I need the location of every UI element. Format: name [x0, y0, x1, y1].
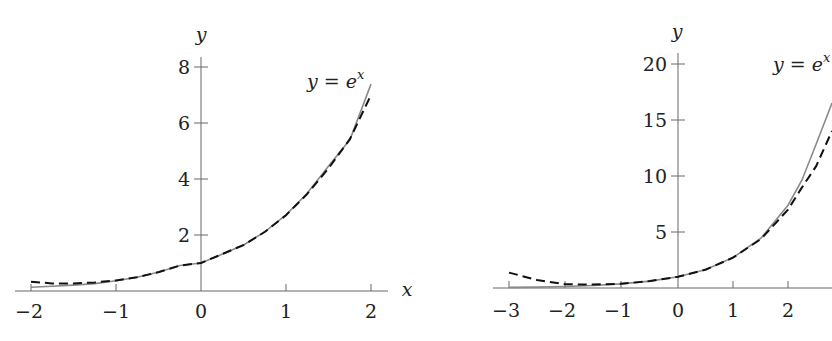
right-x-tick-label: 0	[672, 299, 684, 321]
left-y-axis-label: y	[195, 23, 207, 45]
right-y-tick-label: 15	[643, 109, 667, 131]
right-x-tick-label: 1	[727, 299, 739, 321]
left-y-tick-label: 2	[178, 224, 190, 246]
left-curve-label: y = ex	[306, 67, 365, 92]
left-x-tick-label: 1	[280, 300, 292, 322]
right-exp-curve	[509, 103, 832, 287]
right-y-tick-label: 5	[655, 221, 667, 243]
left-y-tick-label: 8	[178, 56, 190, 78]
figure: −2 −1 0 1 2 2 4 6 8 y x y = ex	[0, 0, 832, 341]
left-x-tick-label: 0	[195, 300, 207, 322]
right-y-tick-label: 20	[643, 53, 667, 75]
left-chart: −2 −1 0 1 2 2 4 6 8 y x y = ex	[15, 23, 413, 322]
left-x-tick-label: −1	[102, 300, 130, 322]
right-y-tick-label: 10	[643, 165, 667, 187]
right-x-tick-label: −3	[492, 299, 520, 321]
right-curve-label: y = ex	[772, 50, 831, 75]
left-x-axis-label: x	[402, 278, 413, 300]
left-x-tick-label: −2	[15, 300, 43, 322]
right-taylor-curve	[509, 131, 832, 285]
right-x-tick-label: −1	[604, 299, 632, 321]
right-chart: −3 −2 −1 0 1 2 5 10 15 20 y y = ex	[492, 20, 832, 321]
left-x-tick-label: 2	[365, 300, 377, 322]
right-y-axis-label: y	[671, 20, 683, 42]
right-x-tick-label: −2	[548, 299, 576, 321]
left-y-tick-label: 4	[178, 168, 190, 190]
right-x-tick-label: 2	[782, 299, 794, 321]
left-y-tick-label: 6	[178, 112, 190, 134]
